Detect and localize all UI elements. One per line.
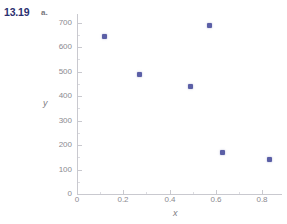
scatter-plot: 0100200300400500600700 00.20.40.60.8 y x: [0, 0, 287, 224]
x-tick-mark: [123, 190, 124, 194]
y-minor-tick-mark: [78, 59, 80, 60]
x-tick-mark: [77, 190, 78, 194]
data-point: [137, 72, 142, 77]
y-tick-mark: [78, 121, 82, 122]
y-tick-mark: [78, 23, 82, 24]
y-tick-mark: [78, 145, 82, 146]
y-tick-label: 500: [46, 68, 72, 76]
x-tick-label: 0.6: [204, 196, 228, 204]
y-tick-mark: [78, 47, 82, 48]
y-minor-tick-mark: [78, 84, 80, 85]
x-axis-line: [77, 194, 282, 195]
y-tick-label: 300: [46, 117, 72, 125]
figure-canvas: 13.19 a. 0100200300400500600700 00.20.40…: [0, 0, 287, 224]
y-axis-title: y: [43, 98, 48, 108]
y-tick-label: 600: [46, 43, 72, 51]
x-tick-mark: [262, 190, 263, 194]
y-tick-label: 200: [46, 141, 72, 149]
y-tick-mark: [78, 96, 82, 97]
y-tick-label: 400: [46, 92, 72, 100]
x-minor-tick-mark: [100, 192, 101, 194]
y-axis-line: [77, 14, 78, 195]
data-point: [207, 23, 212, 28]
x-axis-title: x: [173, 208, 178, 218]
x-minor-tick-mark: [239, 192, 240, 194]
data-point: [267, 157, 272, 162]
y-tick-label: 100: [46, 166, 72, 174]
data-point: [102, 34, 107, 39]
x-tick-label: 0: [65, 196, 89, 204]
data-point: [188, 84, 193, 89]
y-minor-tick-mark: [78, 35, 80, 36]
y-tick-mark: [78, 170, 82, 171]
y-tick-label: 700: [46, 19, 72, 27]
y-minor-tick-mark: [78, 133, 80, 134]
y-minor-tick-mark: [78, 108, 80, 109]
x-tick-label: 0.4: [158, 196, 182, 204]
x-minor-tick-mark: [193, 192, 194, 194]
y-minor-tick-mark: [78, 182, 80, 183]
data-point: [220, 150, 225, 155]
x-tick-label: 0.2: [111, 196, 135, 204]
x-minor-tick-mark: [146, 192, 147, 194]
x-tick-mark: [216, 190, 217, 194]
y-minor-tick-mark: [78, 157, 80, 158]
x-tick-label: 0.8: [250, 196, 274, 204]
x-tick-mark: [170, 190, 171, 194]
y-tick-mark: [78, 72, 82, 73]
